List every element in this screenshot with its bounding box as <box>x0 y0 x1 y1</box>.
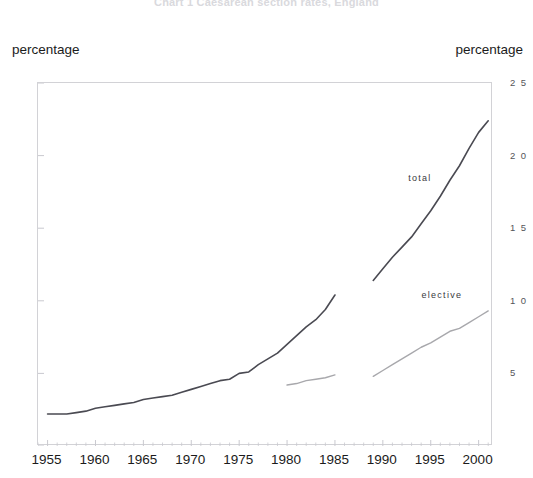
x-axis-label: 1970 <box>175 452 205 467</box>
x-axis-label: 1995 <box>415 452 445 467</box>
series-label-elective: elective <box>421 290 462 300</box>
plot-svg <box>38 83 493 446</box>
series-line-elective-0 <box>287 375 335 385</box>
series-line-total-0 <box>48 295 335 414</box>
x-axis-label: 1960 <box>79 452 109 467</box>
y-axis-right-label: 2 5 <box>510 77 527 88</box>
plot-area <box>37 82 492 445</box>
y-axis-right-label: 2 0 <box>510 149 527 160</box>
x-axis-label: 1955 <box>32 452 62 467</box>
y-axis-right-label: 1 0 <box>510 294 527 305</box>
x-axis-label: 2000 <box>463 452 493 467</box>
series-label-total: total <box>408 173 432 183</box>
x-axis-label: 1975 <box>223 452 253 467</box>
series-total <box>48 121 489 414</box>
y-axis-right-label: 5 <box>510 367 517 378</box>
x-axis-label: 1980 <box>271 452 301 467</box>
x-axis-label: 1985 <box>319 452 349 467</box>
x-axis-label: 1965 <box>127 452 157 467</box>
y-axis-right-ticks: 51 01 52 02 5 <box>501 0 533 478</box>
chart-title-cropped: Chart 1 Caesarean section rates, England <box>0 0 533 10</box>
y-axis-left-ticks: 0510152025 <box>0 0 31 478</box>
y-tick-marks <box>38 83 44 446</box>
chart-figure: Chart 1 Caesarean section rates, England… <box>0 0 533 478</box>
x-axis-label: 1990 <box>367 452 397 467</box>
y-axis-right-label: 1 5 <box>510 222 527 233</box>
series-line-total-1 <box>373 121 488 281</box>
x-tick-marks <box>38 440 488 446</box>
series-elective <box>287 311 488 385</box>
series-line-elective-1 <box>373 311 488 376</box>
